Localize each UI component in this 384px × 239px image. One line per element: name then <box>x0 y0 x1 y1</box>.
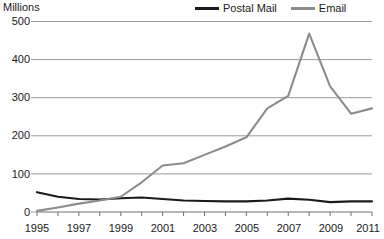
plot-area <box>0 0 384 239</box>
series-line-postal-mail <box>37 192 372 202</box>
series-line-email <box>37 34 372 211</box>
line-chart: Millions Postal Mail Email 500 400 300 2… <box>0 0 384 239</box>
